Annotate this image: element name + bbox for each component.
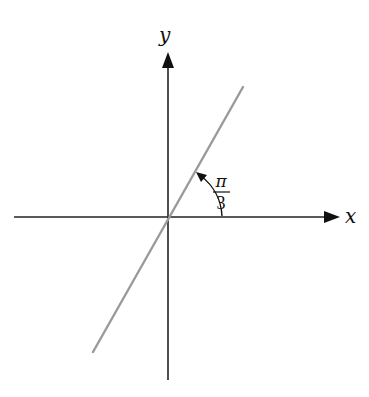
- angle-denominator: 3: [217, 193, 226, 213]
- x-axis-label: x: [345, 204, 356, 228]
- angle-numerator: π: [214, 171, 227, 191]
- y-axis-label: y: [158, 23, 171, 47]
- x-axis-arrowhead: [324, 211, 340, 223]
- diagram-canvas: y x π 3: [0, 0, 369, 397]
- y-axis-arrowhead: [162, 52, 174, 68]
